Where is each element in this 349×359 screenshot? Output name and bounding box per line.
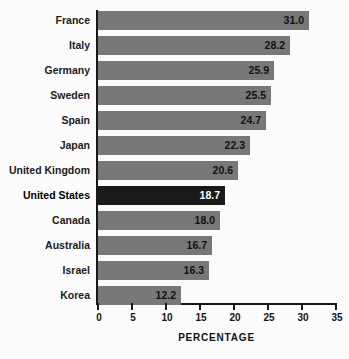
category-label: Sweden xyxy=(0,86,90,105)
bar-row: Japan22.3 xyxy=(0,136,349,155)
x-tick-label: 0 xyxy=(84,312,114,323)
x-tick-label: 35 xyxy=(322,312,349,323)
category-label: Canada xyxy=(0,211,90,230)
bar-row: Sweden25.5 xyxy=(0,86,349,105)
bar-value-label: 31.0 xyxy=(284,11,304,30)
bar-value-label: 18.0 xyxy=(195,211,215,230)
bar: 18.7 xyxy=(98,186,225,205)
x-tick xyxy=(131,303,133,310)
bar: 31.0 xyxy=(98,11,309,30)
x-tick-label: 25 xyxy=(254,312,284,323)
bar: 12.2 xyxy=(98,286,181,305)
bar-row: France31.0 xyxy=(0,11,349,30)
bar: 16.7 xyxy=(98,236,212,255)
bar: 25.5 xyxy=(98,86,271,105)
category-label: Australia xyxy=(0,236,90,255)
bar-value-label: 16.7 xyxy=(187,236,207,255)
category-label: Spain xyxy=(0,111,90,130)
category-label: Japan xyxy=(0,136,90,155)
category-label: Italy xyxy=(0,36,90,55)
x-tick xyxy=(199,303,201,310)
bar-row: Australia16.7 xyxy=(0,236,349,255)
bar-row: United Kingdom20.6 xyxy=(0,161,349,180)
bar-value-label: 22.3 xyxy=(225,136,245,155)
plot-area: France31.0Italy28.2Germany25.9Sweden25.5… xyxy=(0,0,349,359)
bar: 28.2 xyxy=(98,36,290,55)
bar-row: United States18.7 xyxy=(0,186,349,205)
x-tick-label: 15 xyxy=(186,312,216,323)
x-tick-label: 30 xyxy=(288,312,318,323)
x-tick xyxy=(267,303,269,310)
bar-row: Germany25.9 xyxy=(0,61,349,80)
bar-chart: France31.0Italy28.2Germany25.9Sweden25.5… xyxy=(0,0,349,359)
bar: 16.3 xyxy=(98,261,209,280)
category-label: France xyxy=(0,11,90,30)
x-axis-title: PERCENTAGE xyxy=(96,332,337,343)
x-tick xyxy=(335,303,337,310)
bar: 20.6 xyxy=(98,161,238,180)
bar-row: Korea12.2 xyxy=(0,286,349,305)
x-tick xyxy=(301,303,303,310)
category-label: United Kingdom xyxy=(0,161,90,180)
bar-value-label: 28.2 xyxy=(265,36,285,55)
category-label: Germany xyxy=(0,61,90,80)
bar-value-label: 20.6 xyxy=(213,161,233,180)
bar-row: Israel16.3 xyxy=(0,261,349,280)
category-label: United States xyxy=(0,186,90,205)
bar-value-label: 25.9 xyxy=(249,61,269,80)
x-tick xyxy=(97,303,99,310)
x-tick-label: 10 xyxy=(152,312,182,323)
bar-value-label: 24.7 xyxy=(241,111,261,130)
bar-row: Spain24.7 xyxy=(0,111,349,130)
x-tick xyxy=(233,303,235,310)
bar-row: Canada18.0 xyxy=(0,211,349,230)
x-tick xyxy=(165,303,167,310)
bar-value-label: 25.5 xyxy=(246,86,266,105)
bar: 24.7 xyxy=(98,111,266,130)
bar: 22.3 xyxy=(98,136,250,155)
bar-value-label: 16.3 xyxy=(184,261,204,280)
bar: 25.9 xyxy=(98,61,274,80)
category-label: Israel xyxy=(0,261,90,280)
bar-row: Italy28.2 xyxy=(0,36,349,55)
bar: 18.0 xyxy=(98,211,220,230)
x-tick-label: 20 xyxy=(220,312,250,323)
category-label: Korea xyxy=(0,286,90,305)
bar-value-label: 18.7 xyxy=(200,186,220,205)
x-tick-label: 5 xyxy=(118,312,148,323)
